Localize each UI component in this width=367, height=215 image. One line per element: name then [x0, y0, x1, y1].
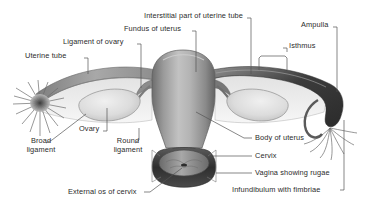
fimbriae-left-core: [30, 94, 50, 112]
label-fundus-of-uterus: Fundus of uterus: [124, 24, 181, 33]
label-round-ligament: Round ligament: [105, 136, 151, 154]
anatomy-artwork: [0, 0, 367, 215]
label-external-os-of-cervix: External os of cervix: [68, 187, 137, 196]
leader-interstitial: [247, 18, 251, 74]
label-infundibulum-with-fimbriae: Infundibulum with fimbriae: [232, 185, 320, 194]
label-interstitial-part: Interstitial part of uterine tube: [144, 11, 243, 20]
label-broad-ligament: Broad ligament: [18, 136, 64, 154]
external-os: [181, 163, 187, 166]
fimbriae-right: [304, 128, 357, 160]
label-broad-ligament-line1: Broad: [18, 136, 64, 145]
label-isthmus: Isthmus: [289, 41, 316, 50]
label-vagina-showing-rugae: Vagina showing rugae: [255, 168, 330, 177]
label-ampulla: Ampulla: [301, 20, 328, 29]
leader-ampulla: [333, 27, 337, 92]
leader-isthmus: [283, 48, 287, 52]
label-broad-ligament-line2: ligament: [18, 145, 64, 154]
uterus-body: [152, 50, 215, 148]
label-uterine-tube: Uterine tube: [25, 51, 66, 60]
label-ligament-of-ovary: Ligament of ovary: [63, 37, 123, 46]
label-round-ligament-line1: Round: [105, 136, 151, 145]
label-body-of-uterus: Body of uterus: [255, 133, 304, 142]
label-ovary: Ovary: [79, 124, 99, 133]
anatomy-diagram: Interstitial part of uterine tube Fundus…: [0, 0, 367, 215]
label-cervix: Cervix: [255, 151, 277, 160]
label-round-ligament-line2: ligament: [105, 145, 151, 154]
cervix: [159, 150, 209, 176]
